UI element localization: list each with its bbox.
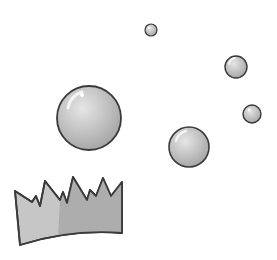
illustration-canvas	[0, 0, 277, 260]
paper-crown	[15, 177, 122, 245]
small-bubble-right-upper	[225, 56, 247, 78]
medium-bubble	[169, 127, 209, 167]
small-bubble-right-lower	[243, 105, 261, 123]
large-bubble	[57, 86, 121, 150]
tiny-bubble-top	[145, 24, 157, 36]
